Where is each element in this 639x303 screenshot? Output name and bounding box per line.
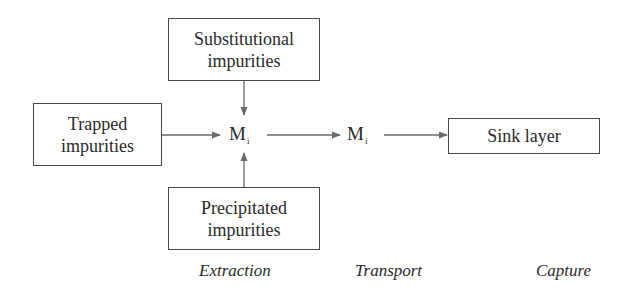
stage-label-capture: Capture: [536, 261, 591, 281]
sink-layer-label: Sink layer: [487, 125, 561, 147]
stage-label-extraction: Extraction: [199, 261, 271, 281]
substitutional-line1: Substitutional: [194, 28, 294, 50]
precipitated-line1: Precipitated: [201, 197, 287, 219]
trapped-impurities-box: Trapped impurities: [33, 103, 162, 166]
trapped-line1: Trapped: [61, 113, 134, 135]
mi-subscript: i: [365, 136, 368, 146]
mi-symbol: M: [347, 123, 364, 144]
mi-subscript: i: [247, 136, 250, 146]
trapped-line2: impurities: [61, 135, 134, 157]
substitutional-impurities-box: Substitutional impurities: [168, 18, 320, 81]
precipitated-line2: impurities: [201, 219, 287, 241]
precipitated-impurities-box: Precipitated impurities: [168, 187, 320, 250]
stage-label-transport: Transport: [355, 261, 422, 281]
mi-node-transport: Mi: [347, 124, 367, 151]
mi-symbol: M: [229, 123, 246, 144]
mi-node-extraction: Mi: [229, 124, 249, 151]
sink-layer-box: Sink layer: [448, 118, 600, 154]
substitutional-line2: impurities: [194, 50, 294, 72]
